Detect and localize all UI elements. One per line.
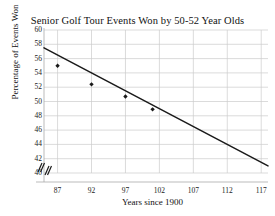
data-point	[55, 64, 59, 68]
plot-area	[0, 0, 275, 216]
chart-container: Senior Golf Tour Events Won by 50-52 Yea…	[0, 0, 275, 216]
trend-line	[44, 48, 268, 166]
data-point	[150, 107, 154, 111]
data-point	[89, 82, 93, 86]
data-point	[123, 94, 127, 98]
